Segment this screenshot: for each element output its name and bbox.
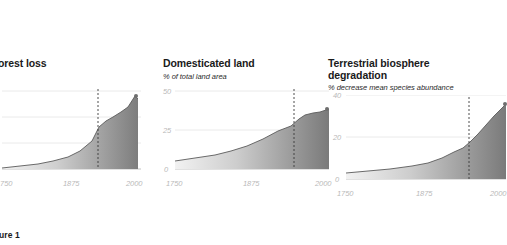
y-tick-label: 25 [163, 125, 171, 134]
y-tick-label: 0 [164, 164, 168, 173]
area-chart-svg [328, 95, 507, 187]
endpoint-marker [134, 94, 138, 98]
panel-header-terrestrial-biosphere-degradation: Terrestrial biosphere degradation % decr… [328, 58, 507, 92]
y-tick-label: 50 [163, 86, 171, 95]
panel-header-tropical-forest-loss: ropical forest loss loss (area) [0, 58, 143, 81]
panel-subtitle: loss (area) [0, 72, 143, 81]
plot-area-domesticated-land: 50 25 0 1750 1875 2000 [163, 85, 348, 177]
chart-panel-tropical-forest-loss: ropical forest loss loss (area) [0, 58, 143, 213]
plot-canvas: 40 20 0 1750 1875 2000 [328, 95, 507, 187]
y-tick-label: 0 [335, 175, 339, 184]
plot-canvas: 50 25 0 1750 1875 2000 [163, 85, 348, 177]
panel-subtitle: % decrease mean species abundance [328, 83, 507, 92]
x-tick-label: 1750 [166, 179, 182, 188]
area-fill [2, 96, 138, 169]
area-fill [175, 109, 329, 169]
x-tick-label: 1875 [243, 179, 259, 188]
x-tick-label: 1750 [0, 179, 12, 188]
plot-area-tropical-forest-loss: 30 20 10 0 1750 1875 2000 [0, 85, 143, 177]
area-fill [346, 104, 506, 179]
y-tick-label: 40 [333, 91, 341, 100]
plot-canvas: 30 20 10 0 1750 1875 2000 [0, 85, 143, 177]
x-tick-label: 1875 [416, 189, 432, 198]
figure-container: 0 1750 1875 2000 [0, 0, 507, 245]
y-tick-label: 20 [333, 133, 341, 142]
chart-panel-top-left: 0 1750 1875 2000 [0, 0, 143, 42]
endpoint-marker [503, 102, 507, 106]
panel-title: ropical forest loss [0, 58, 143, 70]
x-tick-label: 1875 [63, 179, 79, 188]
panel-title: Terrestrial biosphere degradation [328, 58, 507, 81]
x-tick-label: 1750 [337, 189, 353, 198]
plot-area-terrestrial-biosphere-degradation: 40 20 0 1750 1875 2000 [328, 95, 507, 187]
x-tick-label: 2000 [490, 189, 506, 198]
x-tick-label: 2000 [126, 179, 142, 188]
figure-caption: Figure 1 [0, 230, 20, 240]
panel-header-domesticated-land: Domesticated land % of total land area [163, 58, 348, 81]
area-chart-svg [163, 85, 348, 177]
chart-panel-top-middle: 0 1750 1875 2000 [163, 0, 348, 42]
panel-subtitle: % of total land area [163, 72, 348, 81]
chart-panel-terrestrial-biosphere-degradation: Terrestrial biosphere degradation % decr… [328, 58, 507, 213]
panel-title: Domesticated land [163, 58, 348, 70]
chart-panel-top-right: 0 1750 1875 2000 [328, 0, 507, 42]
chart-panel-domesticated-land: Domesticated land % of total land area [163, 58, 348, 213]
area-chart-svg [0, 85, 143, 177]
